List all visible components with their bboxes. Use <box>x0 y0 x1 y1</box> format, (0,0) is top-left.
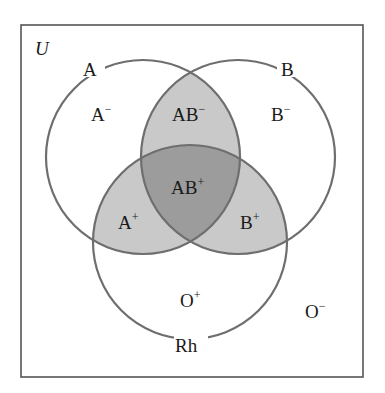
venn-diagram: U A B Rh A− B− AB− AB+ A+ B+ O+ O− <box>0 0 385 393</box>
universe-label: U <box>35 38 50 59</box>
set-label-rh: Rh <box>175 335 198 356</box>
set-label-b: B <box>281 59 294 80</box>
set-label-a: A <box>83 59 97 80</box>
